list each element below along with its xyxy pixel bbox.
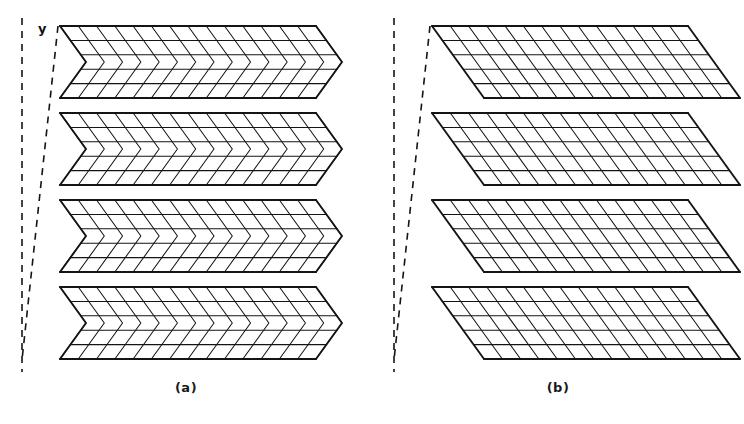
chevron-column-line (151, 287, 177, 359)
chevron-column-line (97, 287, 123, 359)
figure-root: y (a) y (b) (0, 0, 744, 424)
chevron-column-line (97, 26, 123, 98)
panel-b: y (b) (372, 0, 744, 424)
corrugated-surface-diagram (0, 0, 372, 424)
layer-right-edge (316, 113, 342, 185)
chevron-column-line (243, 113, 269, 185)
chevron-column-line (225, 26, 251, 98)
corrugated-layer (60, 287, 342, 359)
panel-caption-a: (a) (0, 380, 372, 395)
chevron-column-line (97, 200, 123, 272)
chevron-column-line (298, 200, 324, 272)
chevron-column-line (279, 200, 305, 272)
chevron-column-line (60, 26, 86, 98)
corrugated-layer (60, 26, 342, 98)
chevron-column-line (279, 26, 305, 98)
chevron-column-line (298, 287, 324, 359)
chevron-column-line (316, 287, 342, 359)
dashed-slant-guide (22, 26, 58, 360)
chevron-column-line (133, 26, 159, 98)
chevron-column-line (170, 26, 196, 98)
dashed-reference-group (394, 18, 430, 372)
chevron-column-line (133, 200, 159, 272)
chevron-column-line (188, 26, 214, 98)
chevron-column-line (243, 287, 269, 359)
chevron-column-line (133, 113, 159, 185)
chevron-column-line (78, 26, 104, 98)
chevron-column-line (60, 113, 86, 185)
panel-caption-b: (b) (372, 380, 744, 395)
dashed-slant-guide (394, 26, 430, 360)
chevron-column-line (170, 200, 196, 272)
flat-sheet-layer (432, 26, 740, 98)
chevron-column-line (60, 287, 86, 359)
panel-a: y (a) (0, 0, 372, 424)
chevron-column-line (206, 287, 232, 359)
chevron-column-line (298, 26, 324, 98)
chevron-column-line (133, 287, 159, 359)
layer-right-edge (316, 200, 342, 272)
chevron-column-line (115, 200, 141, 272)
layer-left-edge (60, 26, 86, 98)
flat-sheets-diagram (372, 0, 744, 424)
chevron-column-line (115, 113, 141, 185)
chevron-column-line (316, 113, 342, 185)
chevron-column-line (151, 200, 177, 272)
chevron-column-line (243, 200, 269, 272)
chevron-column-line (151, 113, 177, 185)
y-axis-label-a: y (38, 22, 46, 35)
chevron-column-line (279, 113, 305, 185)
chevron-column-line (206, 200, 232, 272)
layer-right-edge (316, 287, 342, 359)
chevron-column-line (78, 287, 104, 359)
chevron-column-line (261, 200, 287, 272)
chevron-column-line (261, 113, 287, 185)
chevron-column-line (316, 26, 342, 98)
flat-sheet-layer (432, 200, 740, 272)
chevron-column-line (78, 113, 104, 185)
chevron-column-line (225, 113, 251, 185)
layer-right-edge (316, 26, 342, 98)
chevron-column-line (225, 200, 251, 272)
chevron-column-line (188, 200, 214, 272)
chevron-column-line (151, 26, 177, 98)
chevron-column-line (225, 287, 251, 359)
chevron-column-line (261, 287, 287, 359)
chevron-column-line (316, 200, 342, 272)
flat-sheet-layer (432, 287, 740, 359)
chevron-column-line (115, 287, 141, 359)
layer-left-edge (60, 200, 86, 272)
chevron-column-line (170, 113, 196, 185)
chevron-column-line (261, 26, 287, 98)
dashed-reference-group (22, 18, 58, 372)
chevron-column-line (188, 287, 214, 359)
corrugated-layer (60, 200, 342, 272)
chevron-column-line (243, 26, 269, 98)
chevron-column-line (206, 113, 232, 185)
chevron-column-line (298, 113, 324, 185)
chevron-column-line (279, 287, 305, 359)
chevron-column-line (78, 200, 104, 272)
corrugated-layer (60, 113, 342, 185)
chevron-column-line (97, 113, 123, 185)
chevron-column-line (170, 287, 196, 359)
chevron-column-line (115, 26, 141, 98)
chevron-column-line (60, 200, 86, 272)
chevron-column-line (206, 26, 232, 98)
flat-sheet-layer (432, 113, 740, 185)
chevron-column-line (188, 113, 214, 185)
layer-left-edge (60, 113, 86, 185)
layer-left-edge (60, 287, 86, 359)
